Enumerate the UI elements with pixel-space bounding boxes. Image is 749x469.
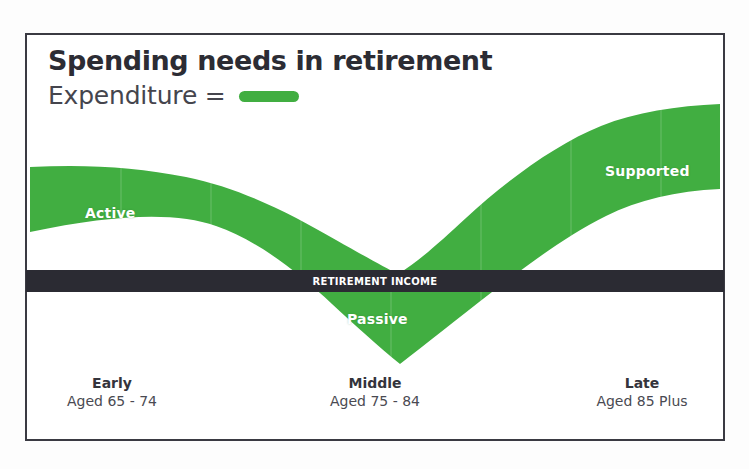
band-label-supported: Supported (605, 163, 690, 179)
stage-late: Late Aged 85 Plus (552, 375, 732, 410)
stage-late-name: Late (552, 375, 732, 393)
legend-label: Expenditure = (48, 82, 226, 110)
stage-middle-age: Aged 75 - 84 (285, 393, 465, 411)
page-title: Spending needs in retirement (48, 46, 668, 76)
stage-early-name: Early (22, 375, 202, 393)
stage-early: Early Aged 65 - 74 (22, 375, 202, 410)
expenditure-pill-icon (239, 91, 299, 102)
retirement-income-label: RETIREMENT INCOME (313, 276, 438, 287)
band-label-passive: Passive (347, 311, 408, 327)
stage-late-age: Aged 85 Plus (552, 393, 732, 411)
chart-header: Spending needs in retirement Expenditure… (48, 46, 668, 109)
stage-middle: Middle Aged 75 - 84 (285, 375, 465, 410)
band-label-active: Active (85, 205, 135, 221)
stage-middle-name: Middle (285, 375, 465, 393)
infographic-root: RETIREMENT INCOME Active Passive Support… (0, 0, 749, 469)
retirement-income-bar: RETIREMENT INCOME (26, 270, 724, 292)
stage-early-age: Aged 65 - 74 (22, 393, 202, 411)
legend: Expenditure = (48, 82, 668, 110)
